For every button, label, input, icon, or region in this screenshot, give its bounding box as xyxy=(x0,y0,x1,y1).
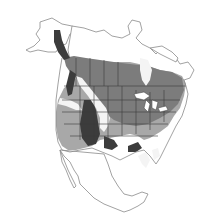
north-america-range-map xyxy=(0,0,218,218)
